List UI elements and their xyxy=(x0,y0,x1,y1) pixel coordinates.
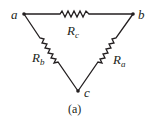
resistor-ra xyxy=(78,14,133,91)
delta-network-diagram: a b c Rc Rb Ra (a) xyxy=(0,0,152,118)
node-b-label: b xyxy=(138,7,145,22)
rc-label: Rc xyxy=(66,23,79,40)
rb-label: Rb xyxy=(31,50,45,67)
node-b-dot xyxy=(131,12,135,16)
ra-label: Ra xyxy=(112,52,126,69)
node-c-label: c xyxy=(84,85,90,100)
figure-caption: (a) xyxy=(68,102,81,116)
node-c-dot xyxy=(76,89,80,93)
node-a-dot xyxy=(22,12,26,16)
resistor-rc xyxy=(24,11,133,17)
node-a-label: a xyxy=(11,7,18,22)
